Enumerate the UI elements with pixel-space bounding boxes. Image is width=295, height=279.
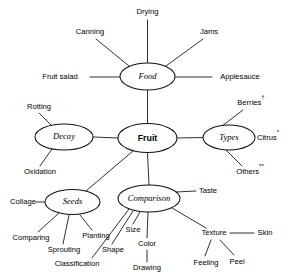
leaf-label-classification[interactable]: Classification [55,259,100,268]
leaf-label-feeling[interactable]: Feeling [194,258,219,267]
node-label-food: Food [137,71,157,81]
edge-seeds-sprouting [63,215,69,244]
edge-fruit-seeds [86,151,133,191]
leaf-label-jams[interactable]: Jams [200,27,218,36]
fruit-concept-map-svg: FoodDecayTypesSeedsComparisonFruit Dryin… [0,0,295,279]
node-types[interactable]: Types [203,125,255,150]
edge-decay-oxidation [40,149,52,166]
leaf-label-comparing[interactable]: Comparing [12,233,49,242]
leaf-label-planting[interactable]: Planting [82,231,109,240]
edge-types-others [226,150,242,166]
concept-map-canvas: FoodDecayTypesSeedsComparisonFruit Dryin… [0,0,295,279]
edge-texture-feeling [205,240,211,256]
nodes-layer: FoodDecayTypesSeedsComparisonFruit [35,63,255,215]
edge-decay-rotting [39,113,52,126]
leaf-label-rotting[interactable]: Rotting [27,102,51,111]
edge-food-canning [96,39,129,66]
node-comparison[interactable]: Comparison [118,185,180,212]
node-label-decay: Decay [52,131,75,141]
edge-food-jams [166,39,203,66]
leaf-label-taste[interactable]: Taste [199,186,217,195]
edge-fruit-decay [93,137,118,138]
leaf-label-drying[interactable]: Drying [137,7,159,16]
edge-types-berries [222,110,243,126]
edge-seeds-comparing [38,213,59,232]
edge-fruit-types [177,138,203,139]
leaf-label-shape[interactable]: Shape [102,245,124,254]
leaf-label-oxidation[interactable]: Oxidation [24,167,56,176]
leaf-label-skin[interactable]: Skin [258,228,273,237]
node-decay[interactable]: Decay [35,124,93,150]
node-fruit[interactable]: Fruit [118,124,177,153]
leaf-label-berries[interactable]: Berries† [237,94,264,107]
node-label-comparison: Comparison [128,193,171,203]
edge-comparison-color [147,212,148,238]
leaf-label-peel[interactable]: Peel [229,257,245,266]
node-food[interactable]: Food [120,63,175,90]
leaf-label-citrus[interactable]: Citrus* [257,129,280,142]
edge-fruit-comparison [148,153,150,186]
leaf-label-sprouting[interactable]: Sprouting [48,245,81,254]
leaf-label-collage[interactable]: Collage [10,197,36,206]
leaf-label-drawing[interactable]: Drawing [133,263,161,272]
node-label-types: Types [219,132,239,142]
node-label-seeds: Seeds [63,196,83,206]
edge-comparison-size [133,212,140,224]
edge-comparison-taste [176,191,196,192]
leaf-label-color[interactable]: Color [138,239,157,248]
leaf-label-canning[interactable]: Canning [76,27,104,36]
leaf-label-texture[interactable]: Texture [202,228,227,237]
leaf-label-applesauce[interactable]: Applesauce [220,72,260,81]
node-seeds[interactable]: Seeds [45,190,100,215]
node-label-fruit: Fruit [138,133,158,143]
edge-seeds-planting [80,215,92,230]
edge-comparison-texture [172,208,206,228]
edge-texture-peel [220,240,234,255]
leaf-label-size[interactable]: Size [126,225,141,234]
leaf-label-fruit-salad[interactable]: Fruit salad [42,72,77,81]
